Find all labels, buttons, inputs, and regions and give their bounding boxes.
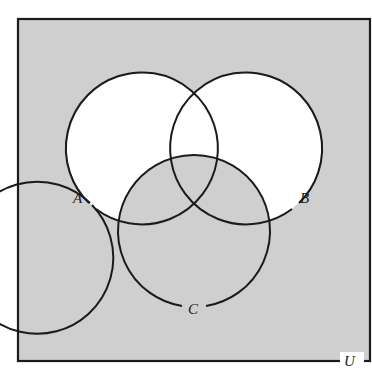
set-a-label: A: [72, 190, 83, 206]
set-b-label: B: [300, 190, 309, 206]
universe-label: U: [344, 353, 356, 369]
venn-diagram: A B C U: [0, 0, 372, 372]
set-c-label: C: [188, 301, 199, 317]
